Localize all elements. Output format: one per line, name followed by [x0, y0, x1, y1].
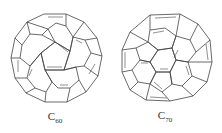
c70-label-subscript: 70 — [165, 116, 172, 124]
c60-label: C60 — [35, 110, 75, 125]
c70-label: C70 — [145, 109, 185, 124]
fullerene-diagram — [0, 0, 222, 133]
c70-molecule-drawing — [122, 14, 212, 101]
c60-molecule-drawing — [11, 14, 102, 102]
c60-label-subscript: 60 — [55, 117, 62, 125]
